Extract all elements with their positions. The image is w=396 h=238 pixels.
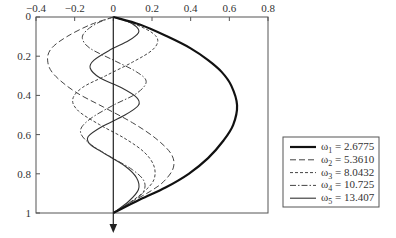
x-tick-label: 0.4 [184,2,198,14]
x-tick-label: 0.6 [222,2,236,14]
x-tick-label: 0.8 [261,2,275,14]
y-axis-ticks: 00.20.40.60.81 [17,10,40,219]
mode-curve-1 [113,17,237,213]
y-tick-label: 0 [26,10,32,22]
y-tick-label: 0.4 [17,89,31,101]
plot-frame [36,17,268,213]
legend: ω1 = 2.6775ω2 = 5.3610ω3 = 8.0432ω4 = 10… [283,137,379,207]
y-tick-label: 0.6 [17,129,31,141]
x-tick-label: 0.2 [145,2,159,14]
y-tick-label: 0.2 [17,50,31,62]
mode-shape-curves [48,17,238,213]
y-tick-label: 0.8 [17,168,31,180]
x-axis-ticks: −0.4−0.200.20.40.60.8 [26,2,275,21]
x-tick-label: −0.2 [65,2,85,14]
x-tick-label: 0 [111,2,117,14]
y-tick-label: 1 [26,207,32,219]
chart: −0.4−0.200.20.40.60.8 00.20.40.60.81 ω1 … [0,0,396,238]
mode-curve-2 [48,17,174,213]
